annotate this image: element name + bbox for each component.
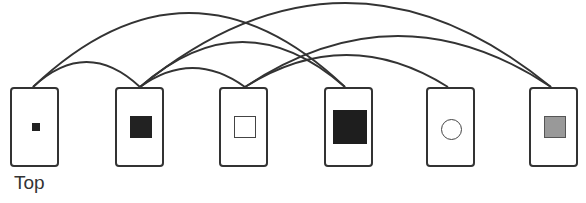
- card-2: [115, 87, 164, 167]
- small-filled-square-icon: [32, 123, 40, 131]
- connection-arcs: [0, 0, 586, 203]
- hollow-circle-icon: [441, 119, 462, 140]
- arc-3-5: [245, 55, 448, 87]
- arc-1-2: [33, 62, 140, 87]
- diagram-canvas: Top: [0, 0, 586, 203]
- card-3: [219, 87, 268, 167]
- card-1: [10, 87, 59, 167]
- card-5: [426, 87, 475, 167]
- card-4: [324, 87, 373, 167]
- filled-square-icon: [130, 116, 152, 138]
- arc-1-4: [33, 13, 345, 87]
- card-6: [529, 87, 578, 167]
- arc-2-3: [140, 68, 245, 87]
- top-label: Top: [14, 172, 45, 194]
- hollow-square-icon: [234, 116, 256, 138]
- arc-2-6: [140, 3, 551, 87]
- gray-square-icon: [544, 116, 566, 138]
- large-filled-square-icon: [333, 110, 367, 144]
